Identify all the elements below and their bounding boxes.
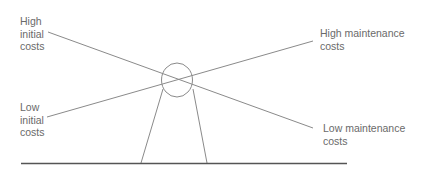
label-high-initial-costs: High initial costs bbox=[20, 15, 45, 53]
line-low-initial-to-high-maintenance bbox=[47, 41, 313, 117]
label-high-maintenance-costs: High maintenance costs bbox=[320, 27, 405, 52]
line-high-initial-to-low-maintenance bbox=[48, 32, 313, 128]
label-low-maintenance-costs: Low maintenance costs bbox=[323, 122, 405, 147]
support-leg-left bbox=[141, 89, 163, 163]
support-leg-right bbox=[193, 89, 207, 163]
label-low-initial-costs: Low initial costs bbox=[20, 101, 45, 139]
